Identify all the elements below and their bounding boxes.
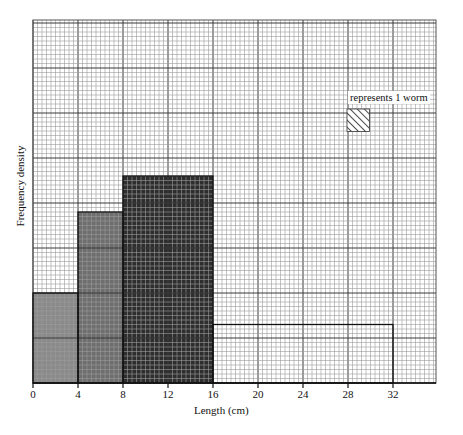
x-axis-label: Length (cm) — [194, 404, 249, 416]
y-axis-label: Frequency density — [14, 146, 26, 227]
x-tick-label: 32 — [388, 388, 399, 400]
x-tick-label: 12 — [163, 388, 174, 400]
x-tick-label: 4 — [75, 388, 81, 400]
x-tick-label: 16 — [208, 388, 219, 400]
x-tick-label: 20 — [253, 388, 264, 400]
x-tick-label: 0 — [30, 388, 36, 400]
histogram-plot — [0, 0, 463, 435]
x-tick-label: 24 — [298, 388, 309, 400]
legend-hatched-square-icon — [347, 109, 370, 132]
x-tick-label: 28 — [343, 388, 354, 400]
x-tick-label: 8 — [120, 388, 126, 400]
x-axis — [33, 383, 436, 388]
legend-label: represents 1 worm — [348, 91, 430, 104]
